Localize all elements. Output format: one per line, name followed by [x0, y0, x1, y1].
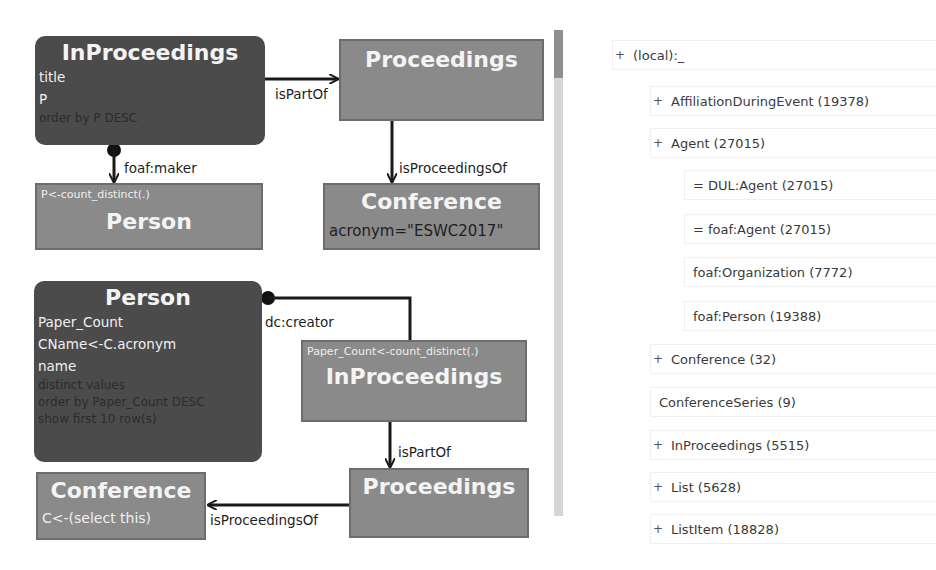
tree-item-label: foaf:Organization (7772) — [693, 265, 852, 280]
edge-label-foafmaker[interactable]: foaf:maker — [124, 160, 197, 176]
node-modifier-distinct[interactable]: distinct values — [34, 377, 262, 394]
tree-item-label: ConferenceSeries (9) — [659, 395, 796, 410]
tree-item-label: Agent (27015) — [671, 136, 765, 151]
node-field-cname[interactable]: CName<-C.acronym — [34, 333, 262, 355]
tree-item-label: = foaf:Agent (27015) — [693, 222, 831, 237]
tree-item-conference[interactable]: + Conference (32) — [650, 344, 936, 374]
tree-item-listitem[interactable]: + ListItem (18828) — [650, 514, 936, 544]
tree-item-foaf-agent[interactable]: = foaf:Agent (27015) — [684, 214, 936, 244]
edge-label-ispartof-q2[interactable]: isPartOf — [398, 444, 451, 460]
tree-item-label: foaf:Person (19388) — [693, 309, 821, 324]
tree-item-label: ListItem (18828) — [671, 522, 779, 537]
expand-plus-icon[interactable]: + — [651, 480, 665, 494]
node-inproceedings-q1[interactable]: InProceedings title P order by P DESC — [35, 36, 265, 145]
node-proceedings-q2[interactable]: Proceedings — [349, 468, 529, 538]
node-modifier-limit[interactable]: show first 10 row(s) — [34, 411, 262, 428]
node-field-name[interactable]: name — [34, 355, 262, 377]
node-field-p[interactable]: P — [35, 88, 265, 110]
tree-item-list[interactable]: + List (5628) — [650, 472, 936, 502]
node-title: Conference — [325, 189, 538, 215]
tree-item-label: Conference (32) — [671, 352, 776, 367]
node-modifier-order[interactable]: order by Paper_Count DESC — [34, 394, 262, 411]
node-conference-q2[interactable]: Conference C<-(select this) — [36, 472, 206, 540]
tree-item-label: AffiliationDuringEvent (19378) — [671, 94, 869, 109]
node-title: Person — [34, 285, 262, 311]
node-aggregate-note[interactable]: P<-count_distinct(.) — [37, 187, 261, 203]
expand-plus-icon[interactable]: + — [651, 94, 665, 108]
tree-item-label: InProceedings (5515) — [671, 438, 809, 453]
tree-item-dul-agent[interactable]: = DUL:Agent (27015) — [684, 170, 936, 200]
tree-item-foaf-person[interactable]: foaf:Person (19388) — [684, 301, 936, 331]
query-diagram-canvas: InProceedings title P order by P DESC Pr… — [0, 0, 552, 570]
expand-plus-icon[interactable]: + — [651, 522, 665, 536]
node-title: Conference — [38, 478, 204, 504]
node-modifier-order[interactable]: order by P DESC — [35, 110, 265, 127]
node-title: InProceedings — [303, 364, 525, 390]
tree-item-label: (local):_ — [633, 48, 684, 63]
tree-item-label: = DUL:Agent (27015) — [693, 178, 833, 193]
node-field-title[interactable]: title — [35, 66, 265, 88]
node-conference-q1[interactable]: Conference acronym="ESWC2017" — [323, 183, 540, 250]
node-field-paper-count[interactable]: Paper_Count — [34, 311, 262, 333]
node-aggregate-note[interactable]: Paper_Count<-count_distinct(.) — [303, 344, 525, 360]
tree-item-conference-series[interactable]: ConferenceSeries (9) — [650, 387, 936, 417]
tree-item-foaf-organization[interactable]: foaf:Organization (7772) — [684, 257, 936, 287]
node-person-q1[interactable]: P<-count_distinct(.) Person — [35, 183, 263, 250]
diagram-scrollbar[interactable] — [554, 30, 563, 516]
edge-label-ispartof-q1[interactable]: isPartOf — [275, 86, 328, 102]
node-inproceedings-q2[interactable]: Paper_Count<-count_distinct(.) InProceed… — [301, 340, 527, 422]
scrollbar-thumb[interactable] — [554, 30, 563, 78]
edge-label-isproceedingsof-q1[interactable]: isProceedingsOf — [399, 160, 507, 176]
edge-label-dccreator[interactable]: dc:creator — [265, 314, 334, 330]
node-proceedings-q1[interactable]: Proceedings — [339, 39, 544, 121]
node-select-note[interactable]: C<-(select this) — [38, 508, 204, 528]
node-title: Proceedings — [351, 474, 527, 500]
tree-item-label: List (5628) — [671, 480, 741, 495]
tree-item-agent[interactable]: + Agent (27015) — [650, 128, 936, 158]
tree-item-affiliation[interactable]: + AffiliationDuringEvent (19378) — [650, 86, 936, 116]
node-person-q2[interactable]: Person Paper_Count CName<-C.acronym name… — [34, 281, 262, 462]
edge-label-isproceedingsof-q2[interactable]: isProceedingsOf — [210, 512, 318, 528]
node-title: Person — [37, 209, 261, 235]
node-title: InProceedings — [35, 40, 265, 66]
expand-plus-icon[interactable]: + — [613, 48, 627, 62]
node-title: Proceedings — [341, 47, 542, 73]
expand-plus-icon[interactable]: + — [651, 352, 665, 366]
tree-item-local[interactable]: + (local):_ — [612, 40, 936, 70]
expand-plus-icon[interactable]: + — [651, 136, 665, 150]
node-filter[interactable]: acronym="ESWC2017" — [325, 221, 538, 241]
tree-item-inproceedings[interactable]: + InProceedings (5515) — [650, 430, 936, 460]
expand-plus-icon[interactable]: + — [651, 438, 665, 452]
